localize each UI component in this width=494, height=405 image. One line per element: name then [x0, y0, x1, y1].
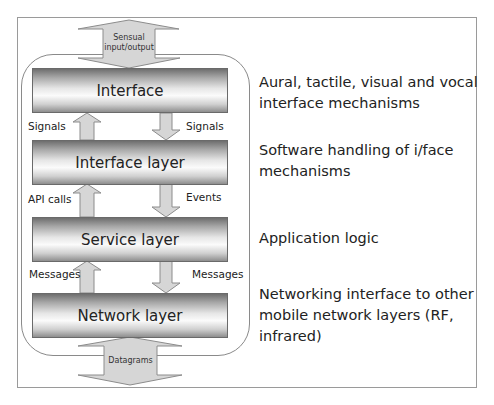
layer-interface: Interface	[32, 68, 228, 113]
interface-layer-description: Software handling of i/face mechanisms	[259, 140, 484, 182]
api-calls-up-arrow-icon	[73, 184, 101, 217]
interface-description: Aural, tactile, visual and vocal interfa…	[259, 72, 484, 114]
network-layer-description: Networking interface to other mobile net…	[259, 284, 484, 347]
api-calls-label: API calls	[28, 193, 71, 205]
events-down-arrow-icon	[152, 184, 180, 217]
service-layer-description: Application logic	[259, 228, 484, 249]
events-label: Events	[186, 191, 222, 203]
signals-down-arrow-icon	[152, 113, 180, 140]
signals-up-label: Signals	[28, 120, 66, 132]
sensual-io-label-line1: Sensual	[103, 33, 155, 43]
layer-network-layer: Network layer	[32, 293, 228, 338]
sensual-io-label: Sensual input/output	[103, 33, 155, 53]
messages-up-label: Messages	[29, 268, 81, 280]
sensual-io-label-line2: input/output	[103, 43, 155, 53]
signals-down-label: Signals	[186, 120, 224, 132]
messages-down-arrow-icon	[152, 261, 180, 293]
layer-interface-layer: Interface layer	[32, 140, 228, 185]
layer-service-layer: Service layer	[32, 217, 228, 262]
messages-down-label: Messages	[192, 268, 244, 280]
signals-up-arrow-icon	[73, 113, 101, 140]
datagrams-label: Datagrams	[104, 356, 157, 366]
